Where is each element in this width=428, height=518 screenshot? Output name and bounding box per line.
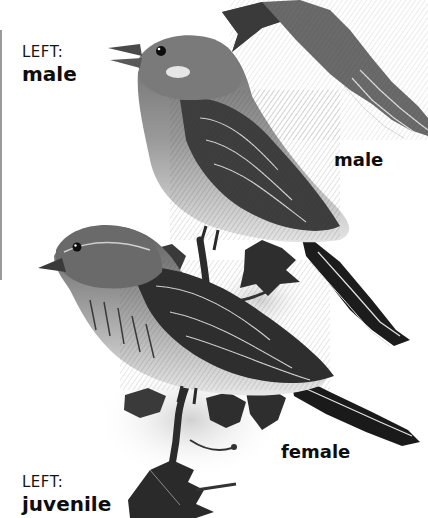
label-kicker: LEFT:	[22, 45, 77, 60]
label-kicker: LEFT:	[22, 475, 111, 490]
label-name: male	[22, 64, 77, 84]
caption-female: female	[281, 443, 350, 461]
label-name: juvenile	[22, 494, 111, 514]
label-left-juvenile: LEFT: juvenile	[22, 475, 111, 514]
illustration-canvas: LEFT: male LEFT: juvenile male female	[0, 0, 428, 518]
label-left-male: LEFT: male	[22, 45, 77, 84]
caption-male: male	[334, 151, 383, 169]
